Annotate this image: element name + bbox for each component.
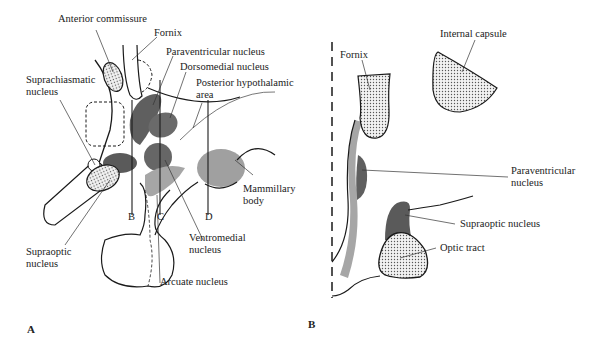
label-paraventricular-b-nucleus: nucleus (511, 177, 543, 189)
label-anterior-commissure: Anterior commissure (58, 13, 147, 25)
panel-b-letter: B (308, 318, 315, 330)
label-optic-tract: Optic tract (440, 242, 485, 254)
label-arcuate: Arcuate nucleus (160, 276, 228, 288)
label-suprachiasmatic: Suprachiasmatic (26, 74, 95, 86)
label-ventromedial: Ventromedial (189, 232, 246, 244)
label-suprachiasmatic-nucleus: nucleus (26, 86, 58, 98)
label-dorsomedial: Dorsomedial nucleus (180, 61, 269, 73)
label-paraventricular-b: Paraventricular (511, 165, 575, 177)
label-section-c: C (157, 211, 164, 223)
panel-b-drawing (332, 40, 508, 298)
label-mammillary-body: body (243, 195, 264, 207)
label-mammillary: Mammillary (243, 183, 296, 195)
label-internal-capsule: Internal capsule (440, 28, 507, 40)
label-posterior-hypothalamic-area: area (196, 89, 213, 101)
label-fornix-a: Fornix (154, 27, 182, 39)
label-ventromedial-nucleus: nucleus (189, 244, 221, 256)
label-section-b: B (128, 211, 135, 223)
panel-a-letter: A (27, 323, 35, 335)
label-supraoptic-a: Supraoptic (26, 246, 72, 258)
label-fornix-b: Fornix (340, 49, 368, 61)
label-supraoptic-a-nucleus: nucleus (26, 258, 58, 270)
label-posterior-hypothalamic: Posterior hypothalamic (196, 77, 294, 89)
label-paraventricular-a: Paraventricular nucleus (166, 46, 265, 58)
hypothalamus-diagram (0, 0, 597, 344)
label-section-d: D (205, 211, 213, 223)
label-supraoptic-b: Supraoptic nucleus (460, 218, 540, 230)
